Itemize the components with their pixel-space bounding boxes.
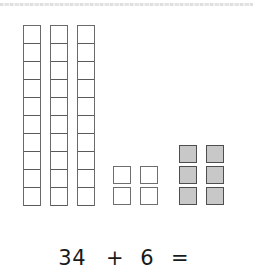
rod-cell [51, 170, 67, 188]
shaded-unit-block [179, 145, 197, 163]
rod-cell [78, 188, 94, 206]
equals-sign: = [171, 246, 189, 269]
rod-cell [78, 152, 94, 170]
rod-cell [51, 44, 67, 62]
shaded-unit-block [206, 145, 224, 163]
rod-cell [24, 62, 40, 80]
rod-cell [78, 170, 94, 188]
tens-rod [23, 25, 41, 206]
faint-header-line [0, 3, 253, 6]
rod-cell [24, 188, 40, 206]
rod-cell [78, 80, 94, 98]
shaded-unit-block [206, 187, 224, 205]
shaded-unit-block [206, 166, 224, 184]
rod-cell [51, 62, 67, 80]
rod-cell [24, 134, 40, 152]
rod-cell [78, 98, 94, 116]
rod-cell [51, 80, 67, 98]
plus-sign: + [106, 246, 124, 269]
rod-cell [78, 116, 94, 134]
unit-block [113, 166, 131, 184]
rod-cell [51, 116, 67, 134]
rod-cell [24, 26, 40, 44]
unit-block [113, 187, 131, 205]
rod-cell [24, 152, 40, 170]
rod-cell [24, 80, 40, 98]
rod-cell [78, 26, 94, 44]
rod-cell [78, 44, 94, 62]
unit-block [140, 166, 158, 184]
tens-rod [77, 25, 95, 206]
operand-2: 6 [140, 246, 154, 269]
rod-cell [51, 98, 67, 116]
unit-block [140, 187, 158, 205]
shaded-unit-block [179, 166, 197, 184]
equation: 34+6= [44, 222, 189, 269]
rod-cell [24, 170, 40, 188]
rod-cell [78, 62, 94, 80]
rod-cell [24, 98, 40, 116]
shaded-unit-block [179, 187, 197, 205]
tens-rod [50, 25, 68, 206]
rod-cell [24, 116, 40, 134]
rod-cell [51, 134, 67, 152]
rod-cell [78, 134, 94, 152]
rod-cell [24, 44, 40, 62]
rod-cell [51, 188, 67, 206]
operand-1: 34 [58, 246, 86, 269]
rod-cell [51, 26, 67, 44]
rod-cell [51, 152, 67, 170]
